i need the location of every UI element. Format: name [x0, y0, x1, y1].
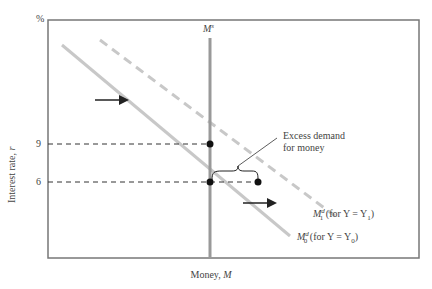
point-excess	[255, 179, 262, 186]
y-axis-label: Interest rate, r	[6, 147, 17, 203]
x-axis-label: Money, M	[190, 269, 231, 280]
excess-demand-annotation: Excess demandfor money	[283, 130, 345, 154]
legend-m1d: Md1 (for Y = Y1)	[313, 207, 374, 222]
demand-curve-m0	[62, 45, 290, 236]
money-market-chart	[0, 0, 432, 289]
y-unit-label: %	[36, 13, 44, 24]
ytick-6: 6	[36, 176, 41, 187]
point-r6	[207, 179, 214, 186]
ytick-9: 9	[36, 138, 41, 149]
legend-m0d: Md0 (for Y = Y0)	[297, 230, 358, 245]
point-r9	[207, 141, 214, 148]
demand-curve-m1	[100, 40, 335, 216]
excess-leader-line	[238, 138, 277, 166]
supply-label: Ms	[203, 22, 214, 34]
